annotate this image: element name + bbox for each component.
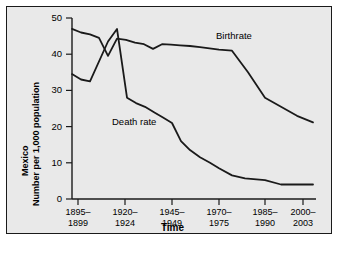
series-line-death-rate (72, 29, 313, 185)
series-label-death-rate: Death rate (112, 116, 156, 127)
chart-figure: 0 10 20 30 40 50 1895– 1899 1920– 1924 1… (0, 0, 345, 258)
x-tick-label-line1: 2000– (281, 207, 325, 218)
x-axis-ticks (78, 199, 303, 205)
y-tick-label: 0 (40, 193, 62, 204)
series-label-birthrate: Birthrate (216, 30, 252, 41)
y-tick-label: 10 (40, 157, 62, 168)
x-tick-label-line1: 1895– (56, 207, 100, 218)
x-tick-label-line1: 1970– (197, 207, 241, 218)
y-axis-ticks (66, 18, 72, 199)
y-axis-title-group: Mexico Number per 1,000 population (8, 6, 34, 206)
y-tick-label: 20 (40, 121, 62, 132)
y-tick-label: 50 (40, 12, 62, 23)
y-tick-label: 40 (40, 48, 62, 59)
y-tick-label: 30 (40, 84, 62, 95)
y-axis-region-label: Mexico (20, 145, 30, 176)
x-tick-label-line1: 1945– (150, 207, 194, 218)
x-axis-title: Time (0, 222, 345, 233)
x-tick-label-line1: 1920– (103, 207, 147, 218)
y-axis-title: Number per 1,000 population (31, 82, 41, 206)
